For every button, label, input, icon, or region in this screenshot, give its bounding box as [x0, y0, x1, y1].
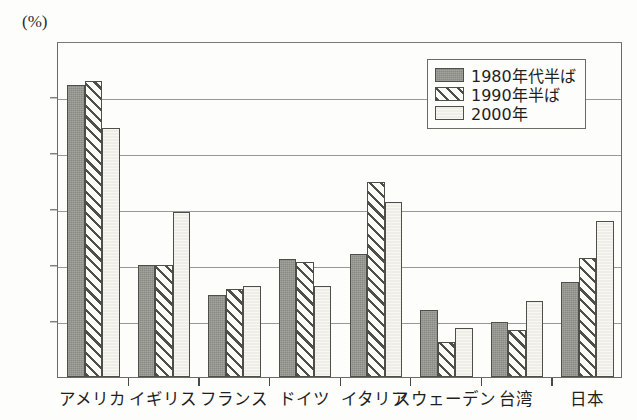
bar: [173, 212, 191, 377]
bar: [243, 286, 261, 377]
x-axis-category-label: フランス: [200, 386, 268, 410]
legend-swatch-icon: [435, 87, 464, 101]
x-axis-tick-mark: [481, 378, 482, 386]
bar: [420, 310, 438, 377]
legend-item: 2000年: [435, 103, 576, 122]
x-axis-category-label: アメリカ: [59, 386, 126, 410]
x-axis-category-label: 日本: [570, 386, 604, 410]
x-axis-tick-mark: [551, 378, 552, 386]
bar: [508, 330, 526, 377]
bar: [596, 221, 614, 377]
bar: [438, 342, 456, 377]
legend-swatch-icon: [435, 106, 464, 120]
bar: [67, 85, 85, 377]
bar: [85, 81, 103, 377]
legend-swatch-icon: [435, 68, 464, 82]
legend-item-label: 2000年: [471, 101, 528, 125]
x-axis-tick-mark: [269, 378, 270, 386]
y-axis-tick-mark: [50, 265, 57, 266]
x-axis-category-label: 台湾: [499, 386, 533, 410]
gridline: [58, 155, 621, 156]
bar: [367, 182, 385, 377]
x-axis-category-label: スウェーデン: [394, 386, 496, 410]
chart-figure: (%) 0.05.010.015.020.025.030.0 アメリカイギリスフ…: [0, 0, 637, 420]
bar: [491, 322, 509, 377]
bar: [455, 328, 473, 377]
y-axis-unit-label: (%): [22, 12, 47, 32]
x-axis-category-label: イギリス: [129, 386, 197, 410]
y-axis-tick-mark: [50, 321, 57, 322]
bar: [385, 202, 403, 377]
y-axis-tick-mark: [50, 97, 57, 98]
gridline: [58, 211, 621, 212]
bar: [138, 265, 156, 377]
legend: 1980年代半ば1990年半ば2000年: [427, 59, 586, 129]
x-axis-tick-mark: [198, 378, 199, 386]
x-axis-tick-mark: [340, 378, 341, 386]
bar: [561, 282, 579, 377]
bar: [350, 254, 368, 377]
y-axis-tick-mark: [50, 209, 57, 210]
x-axis-tick-mark: [410, 378, 411, 386]
bar: [579, 258, 597, 377]
bar: [279, 259, 297, 377]
bar: [296, 262, 314, 377]
bar: [226, 289, 244, 377]
bar: [314, 286, 332, 377]
x-axis-tick-mark: [128, 378, 129, 386]
bar: [102, 128, 120, 377]
x-axis-category-label: ドイツ: [279, 386, 330, 410]
bar: [155, 265, 173, 377]
y-axis-tick-mark: [50, 153, 57, 154]
bar: [208, 295, 226, 377]
bar: [526, 301, 544, 377]
